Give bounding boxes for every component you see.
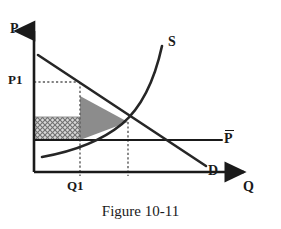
figure-supply-demand-price-ceiling: P Q P1 Q1 S D P Figure 10-11 — [0, 0, 281, 229]
x-axis-label: Q — [243, 180, 254, 194]
quantity-tick-label-q1: Q1 — [67, 179, 84, 192]
curve-demand — [38, 55, 206, 166]
diagram-canvas — [0, 0, 281, 229]
price-ceiling-label: P — [224, 130, 234, 146]
region-consumer-surplus-transfer — [34, 117, 80, 140]
price-ceiling-label-text: P — [224, 131, 233, 146]
figure-caption: Figure 10-11 — [0, 203, 281, 220]
y-axis-label: P — [10, 22, 19, 36]
supply-curve-label: S — [168, 35, 176, 49]
demand-curve-label: D — [208, 164, 218, 178]
price-tick-label-p1: P1 — [8, 73, 22, 86]
region-deadweight-loss — [80, 96, 128, 140]
